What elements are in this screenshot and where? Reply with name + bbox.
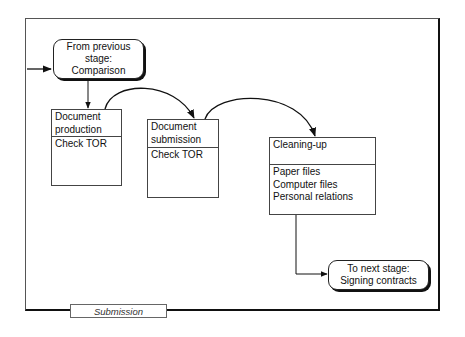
start-node-from-previous-stage: From previous stage: Comparison <box>53 39 144 79</box>
process-body: Paper files Computer files Personal rela… <box>270 165 375 205</box>
process-item: Personal relations <box>273 191 372 204</box>
process-body: Check TOR <box>52 137 121 152</box>
process-item: Check TOR <box>55 138 118 151</box>
end-node-to-next-stage: To next stage: Signing contracts <box>328 260 429 290</box>
start-node-line-1: From previous <box>54 41 143 53</box>
process-title: Cleaning-up <box>270 138 375 165</box>
end-node-line-1: To next stage: <box>329 263 428 275</box>
process-cleaning-up: Cleaning-up Paper files Computer files P… <box>269 137 376 215</box>
process-title-line-2: production <box>55 124 118 137</box>
process-item: Paper files <box>273 166 372 179</box>
process-title-line-2: submission <box>151 134 215 147</box>
start-node-line-3: Comparison <box>54 65 143 77</box>
process-title-line-1: Cleaning-up <box>273 139 372 152</box>
process-title: Document production <box>52 110 121 137</box>
process-title-line-1: Document <box>55 111 118 124</box>
process-title: Document submission <box>148 120 218 148</box>
process-document-submission: Document submission Check TOR <box>147 119 219 198</box>
start-node-line-2: stage: <box>54 53 143 65</box>
process-item: Computer files <box>273 179 372 192</box>
end-node-line-2: Signing contracts <box>329 275 428 287</box>
process-document-production: Document production Check TOR <box>51 109 122 186</box>
stage-label: Submission <box>70 304 167 318</box>
process-body: Check TOR <box>148 148 218 163</box>
process-title-line-1: Document <box>151 121 215 134</box>
process-item: Check TOR <box>151 149 215 162</box>
